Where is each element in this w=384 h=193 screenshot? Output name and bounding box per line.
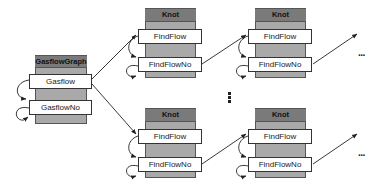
continuation-ellipsis-top: ... [358,49,365,57]
vertical-ellipsis-icon [228,92,231,104]
slot-findflow: FindFlow [248,129,312,144]
slot-findflow: FindFlow [248,29,312,44]
slot-gasflow: Gasflow [29,74,92,89]
node-title: Knot [145,109,196,122]
node-title: Knot [255,109,306,122]
slot-findflowno: FindFlowNo [248,157,312,172]
node-title: Knot [145,9,196,22]
slot-findflow: FindFlow [138,129,202,144]
diagram-canvas: GasflowGraph Gasflow GasflowNo Knot Find… [0,0,384,193]
node-title: Knot [255,9,306,22]
node-title: GasflowGraph [35,56,87,68]
slot-gasflowno: GasflowNo [29,100,92,115]
slot-findflowno: FindFlowNo [138,57,202,72]
slot-findflowno: FindFlowNo [138,157,202,172]
continuation-ellipsis-bottom: ... [358,149,365,157]
slot-findflow: FindFlow [138,29,202,44]
slot-findflowno: FindFlowNo [248,57,312,72]
